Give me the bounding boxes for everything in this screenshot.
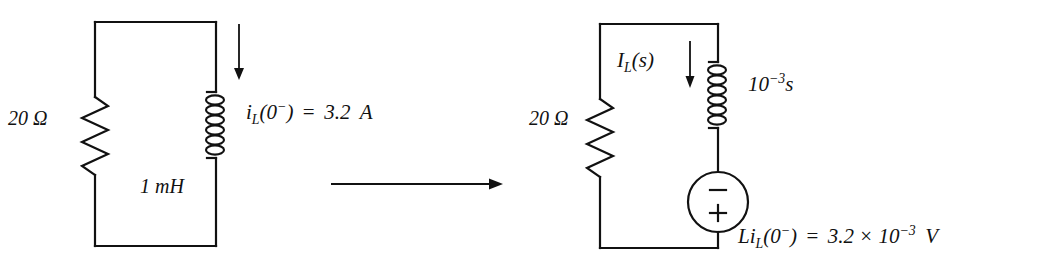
il0-equals: = (303, 100, 315, 124)
left-circuit-group (82, 22, 244, 246)
right-current-arrow (686, 42, 695, 88)
imp-mantissa: 10 (748, 72, 769, 96)
Ils-subscript: L (624, 60, 632, 75)
vsrc-superscript: − (781, 223, 790, 238)
imp-variable: s (785, 72, 793, 96)
vsrc-power-base: 10 (879, 224, 900, 248)
circuit-diagram-figure: 20 Ω 1 mH iL(0−)=3.2A 20 Ω IL(s) 10−3s L… (0, 0, 1041, 276)
left-resistor-label: 20 Ω (8, 108, 47, 128)
vsrc-times: × (860, 224, 872, 248)
vsrc-power-exp: −3 (900, 223, 916, 238)
vsrc-equals: = (807, 224, 819, 248)
left-inductor-label: 1 mH (140, 176, 184, 196)
vsrc-arg-close: ) (790, 224, 797, 248)
voltage-source-label: LiL(0−)=3.2×10−3V (738, 224, 938, 251)
vsrc-mantissa: 3.2 (828, 224, 854, 248)
il0-value: 3.2 (324, 100, 350, 124)
vsrc-unit: V (925, 224, 938, 248)
right-current-label: IL(s) (617, 50, 654, 75)
Ils-symbol: I (617, 48, 624, 72)
transformation-arrow (331, 179, 503, 190)
left-initial-current-label: iL(0−)=3.2A (246, 100, 373, 127)
Ils-argument: (s) (632, 48, 654, 72)
resistor-20ohm-left (82, 97, 108, 175)
vsrc-symbol: Li (738, 224, 756, 248)
il0-subscript: L (252, 112, 260, 127)
imp-exponent: −3 (769, 71, 785, 86)
inductor-1mH-left (206, 95, 224, 154)
left-current-arrow (234, 25, 244, 80)
il0-unit: A (360, 100, 373, 124)
il0-arg-open: (0 (260, 100, 278, 124)
inductor-impedance-right (708, 65, 726, 124)
right-resistor-label: 20 Ω (529, 108, 568, 128)
right-inductor-impedance-label: 10−3s (748, 72, 793, 95)
right-circuit-group (587, 24, 748, 248)
il0-arg-close: ) (286, 100, 293, 124)
resistor-20ohm-right (587, 99, 613, 177)
voltage-source-circle (688, 172, 748, 232)
vsrc-arg-open: (0 (763, 224, 781, 248)
